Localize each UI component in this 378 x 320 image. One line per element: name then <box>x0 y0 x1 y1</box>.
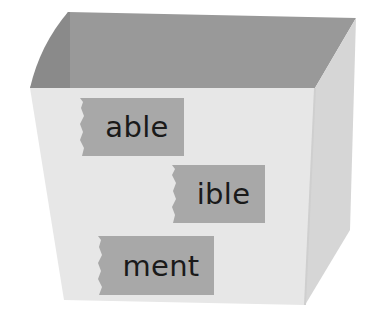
label-text: ible <box>187 177 251 211</box>
label-tape-ment: ment <box>98 236 214 295</box>
label-text: ment <box>112 249 199 283</box>
label-tape-ible: ible <box>172 165 265 223</box>
box-inner-back-wall <box>30 12 356 88</box>
box-inner-left-wall <box>30 12 70 88</box>
label-tape-able: able <box>80 98 184 156</box>
label-text: able <box>95 110 168 144</box>
